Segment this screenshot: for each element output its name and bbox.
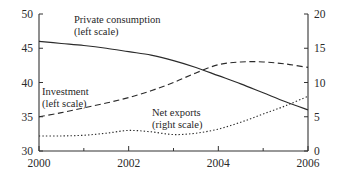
tick-label-right: 20 bbox=[314, 8, 326, 20]
tick-label-x: 2000 bbox=[28, 157, 51, 169]
tick-label-right: 5 bbox=[314, 111, 320, 123]
label-net-exports-scale: (right scale) bbox=[152, 119, 203, 131]
tick-label-x: 2002 bbox=[117, 157, 140, 169]
chart-container: 3035404550 05101520 2000200220042006 Pri… bbox=[0, 0, 348, 181]
line-chart: 3035404550 05101520 2000200220042006 Pri… bbox=[0, 0, 348, 181]
tick-label-right: 15 bbox=[314, 42, 326, 54]
label-investment: Investment bbox=[42, 86, 89, 97]
tick-label-left: 40 bbox=[22, 77, 34, 89]
label-private-consumption-scale: (left scale) bbox=[74, 26, 119, 38]
label-private-consumption: Private consumption bbox=[74, 14, 161, 25]
tick-label-left: 50 bbox=[22, 8, 34, 20]
tick-label-x: 2004 bbox=[207, 157, 230, 169]
tick-label-left: 45 bbox=[22, 42, 34, 54]
label-investment-scale: (left scale) bbox=[42, 98, 87, 110]
tick-label-right: 0 bbox=[314, 145, 320, 157]
tick-label-left: 30 bbox=[22, 145, 34, 157]
tick-label-x: 2006 bbox=[297, 157, 320, 169]
label-net-exports: Net exports bbox=[152, 107, 201, 118]
tick-label-left: 35 bbox=[22, 111, 34, 123]
tick-label-right: 10 bbox=[314, 77, 326, 89]
